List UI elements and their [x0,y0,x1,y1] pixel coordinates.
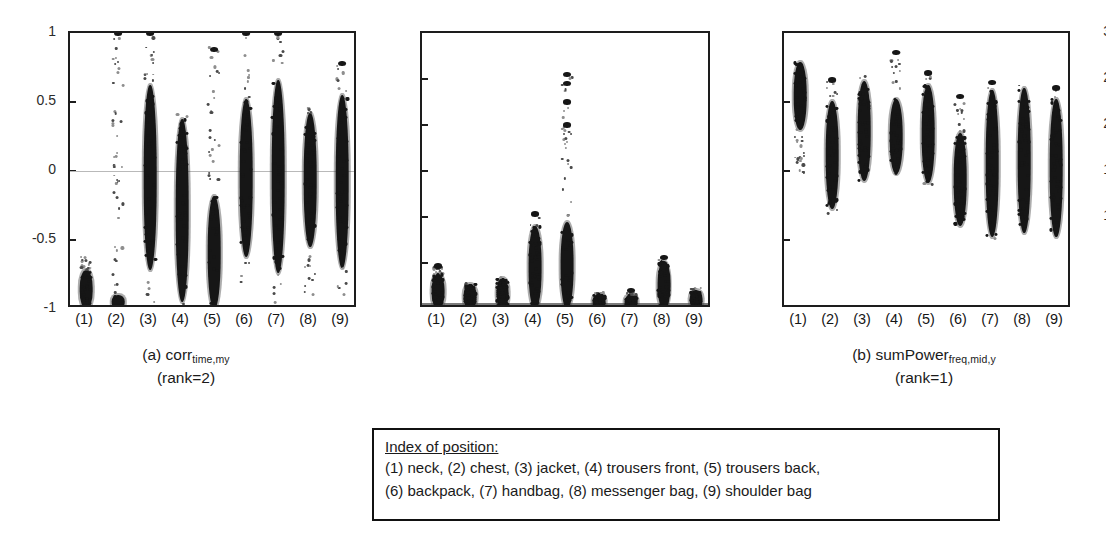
data-point [118,180,120,182]
data-point [111,273,114,276]
data-point [699,306,702,307]
data-point [570,201,572,203]
data-point [895,65,898,68]
x-tick-a-1: (1) [68,309,100,329]
data-point [145,293,148,296]
x-tick-a-3: (3) [132,309,164,329]
data-point [467,306,470,307]
x-tick-b-5: (5) [549,309,581,329]
outlier-point [563,72,571,78]
caption-a-line1: (a) corrtime,my [0,344,372,367]
outlier-point [828,77,836,83]
data-point [439,270,441,272]
x-tick-a-2: (2) [100,309,132,329]
plot-area-c [782,31,1070,307]
figure-root: 10.50-0.5-1 (1)(2)(3)(4)(5)(6)(7)(8)(9) … [0,0,1106,552]
data-point [496,304,499,307]
data-point [345,90,347,92]
data-point [567,107,569,109]
outlier-point [531,211,539,217]
data-point [498,306,501,307]
data-point [346,97,349,100]
data-point [272,59,274,61]
data-point [796,139,799,142]
data-point [246,80,248,82]
data-point [207,174,210,177]
data-point [146,73,148,75]
data-point [182,303,184,305]
data-point [209,129,212,132]
data-point [564,137,567,140]
outlier-point [242,31,250,36]
x-tick-b-3: (3) [484,309,516,329]
x-tick-a-5: (5) [196,309,228,329]
data-point [472,305,475,307]
data-point [898,59,900,61]
data-point [803,152,805,154]
strip-column [428,33,448,307]
x-tick-a-9: (9) [324,309,356,329]
data-point [563,110,565,112]
strip-column [654,33,674,307]
index-legend-row-1: (1) neck, (2) chest, (3) jacket, (4) tro… [385,456,998,479]
strip-column [918,33,938,307]
data-point [338,87,341,90]
x-tick-b-7: (7) [613,309,645,329]
caption-b-name: (b) sumPower [852,346,948,363]
data-point [244,87,246,89]
data-point [958,123,961,126]
strip-column [589,33,609,307]
outlier-point [988,80,996,86]
data-point [836,209,838,211]
strip-column [204,33,224,307]
data-point [209,154,212,157]
outlier-point [956,94,964,100]
strip-column [686,33,706,307]
data-point [342,293,345,296]
x-axis-labels-c: (1)(2)(3)(4)(5)(6)(7)(8)(9) [782,309,1070,331]
data-point [211,148,213,150]
data-point [114,291,117,294]
strip-column [172,33,192,307]
data-point [152,62,154,64]
data-point [282,50,285,53]
data-point [244,54,247,57]
caption-b: (b) sumPowerfreq,mid,y (rank=1) [744,344,1104,388]
data-point [599,306,602,307]
x-tick-c-4: (4) [878,309,910,329]
data-point [212,90,214,92]
data-point [597,306,600,307]
x-tick-c-3: (3) [846,309,878,329]
data-point [336,285,339,288]
x-tick-b-1: (1) [420,309,452,329]
data-point [118,37,121,40]
data-point [90,267,92,269]
y-tick-mark-b-2 [422,124,428,126]
data-point [212,160,215,163]
data-point [87,306,90,307]
data-point [957,113,959,115]
data-point [113,166,116,169]
data-point [152,36,155,39]
data-point [117,217,119,219]
strip-column [557,33,577,307]
data-point [563,129,566,132]
data-point [961,111,964,114]
data-point [279,41,281,43]
data-point [962,118,964,120]
data-point [699,304,702,307]
data-point [115,182,118,185]
strip-column [493,33,513,307]
data-point [117,67,120,70]
strip-column [1046,33,1066,307]
x-axis-labels-a: (1)(2)(3)(4)(5)(6)(7)(8)(9) [68,309,356,331]
strip-column [332,33,352,307]
outlier-point [563,81,571,87]
strip-column [621,33,641,307]
data-point [245,37,247,39]
x-tick-c-7: (7) [974,309,1006,329]
data-point [437,305,440,307]
strip-column [140,33,160,307]
data-point [114,155,117,158]
data-point [213,97,215,99]
